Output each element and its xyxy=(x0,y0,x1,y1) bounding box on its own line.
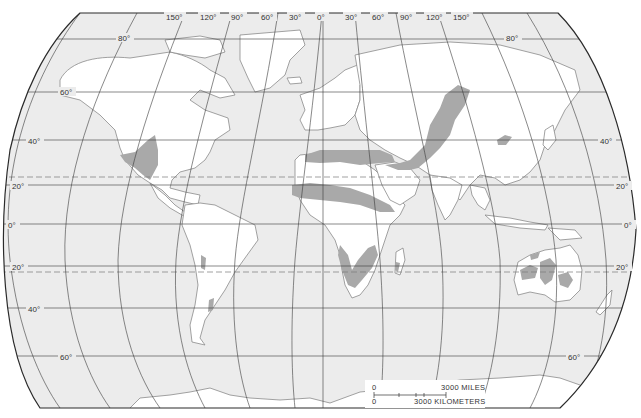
lat-left-60s: 60° xyxy=(60,353,72,362)
lon-label-30e: 30° xyxy=(345,13,357,22)
iceland xyxy=(287,77,302,84)
lon-label-60e: 60° xyxy=(372,13,384,22)
lat-right-80n: 80° xyxy=(506,34,518,43)
scale-km-label: 3000 KILOMETERS xyxy=(414,397,486,406)
scale-miles-zero: 0 xyxy=(372,383,376,392)
lat-left-20s: 20° xyxy=(12,263,24,272)
lon-label-30w: 30° xyxy=(289,13,301,22)
lon-label-150e: 150° xyxy=(453,13,470,22)
lat-right-20n: 20° xyxy=(616,182,628,191)
lat-left-20n: 20° xyxy=(12,182,24,191)
longitude-labels: 150° 120° 90° 60° 30° 0° 30° 60° 90° 120… xyxy=(164,12,473,22)
scale-bar: 0 3000 MILES 0 3000 KILOMETERS xyxy=(365,380,486,408)
scale-km-zero: 0 xyxy=(372,397,376,406)
lon-label-90e: 90° xyxy=(400,13,412,22)
scale-miles-label: 3000 MILES xyxy=(441,383,485,392)
lat-left-80n: 80° xyxy=(118,34,130,43)
lon-label-120w: 120° xyxy=(200,13,217,22)
lon-label-150w: 150° xyxy=(166,13,183,22)
desert-sahara-north xyxy=(305,150,395,165)
lon-label-60w: 60° xyxy=(261,13,273,22)
lat-left-40n: 40° xyxy=(28,137,40,146)
lat-right-20s: 20° xyxy=(616,263,628,272)
lon-label-120e: 120° xyxy=(426,13,443,22)
lat-left-0: 0° xyxy=(8,221,16,230)
lat-right-0: 0° xyxy=(624,221,632,230)
lon-label-90w: 90° xyxy=(231,13,243,22)
lat-left-40s: 40° xyxy=(28,305,40,314)
lat-right-60s: 60° xyxy=(568,353,580,362)
world-desert-map: 150° 120° 90° 60° 30° 0° 30° 60° 90° 120… xyxy=(0,0,641,418)
lat-left-60n: 60° xyxy=(60,88,72,97)
lat-right-40n: 40° xyxy=(600,137,612,146)
lon-label-0: 0° xyxy=(317,13,325,22)
